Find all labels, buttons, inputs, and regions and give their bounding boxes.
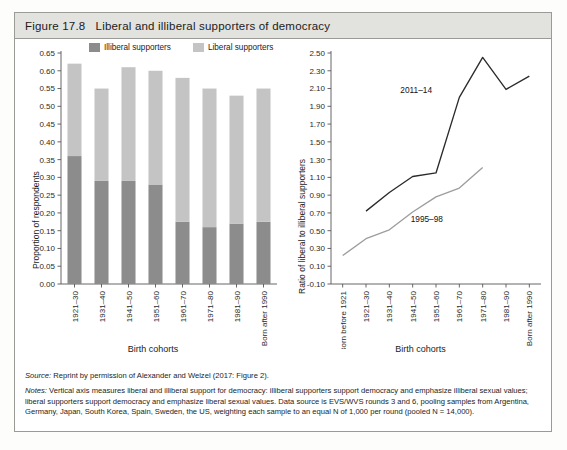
figure-root: Figure 17.8 Liberal and illiberal suppor… xyxy=(0,0,567,450)
bar-chart-svg: 0.000.050.100.150.200.250.300.350.400.45… xyxy=(19,39,284,349)
figure-number: Figure 17.8 xyxy=(25,20,85,32)
svg-text:0.55: 0.55 xyxy=(39,84,55,93)
legend-swatch-liberal xyxy=(193,43,204,52)
svg-text:0.30: 0.30 xyxy=(309,244,325,253)
svg-text:0.50: 0.50 xyxy=(309,227,325,236)
svg-text:0.60: 0.60 xyxy=(39,67,55,76)
svg-text:2011–14: 2011–14 xyxy=(400,85,432,95)
line-chart-svg: -0.100.100.300.500.700.901.101.301.501.7… xyxy=(285,39,549,349)
svg-text:1961–70: 1961–70 xyxy=(179,290,188,322)
svg-text:1.70: 1.70 xyxy=(309,120,325,129)
svg-text:0.90: 0.90 xyxy=(309,191,325,200)
svg-text:1921–30: 1921–30 xyxy=(362,290,371,322)
right-x-axis-title: Birth cohorts xyxy=(303,344,538,354)
svg-text:0.25: 0.25 xyxy=(39,191,55,200)
svg-text:2.10: 2.10 xyxy=(309,84,325,93)
svg-text:1951–60: 1951–60 xyxy=(152,290,161,322)
svg-text:0.05: 0.05 xyxy=(39,262,55,271)
svg-text:0.65: 0.65 xyxy=(39,49,55,58)
right-y-axis-title: Ratio of liberal to illiberal supporters xyxy=(297,159,307,294)
svg-text:0.00: 0.00 xyxy=(39,280,55,289)
svg-text:1971–80: 1971–80 xyxy=(206,290,215,322)
legend-item-liberal: Liberal supporters xyxy=(193,43,274,52)
svg-text:Born after 1990: Born after 1990 xyxy=(525,290,534,346)
legend: Illiberal supporters Liberal supporters xyxy=(89,43,273,52)
svg-text:1941–50: 1941–50 xyxy=(125,290,134,322)
svg-text:0.35: 0.35 xyxy=(39,156,55,165)
notes-line: Notes: Vertical axis measures liberal an… xyxy=(25,386,543,417)
svg-text:2.30: 2.30 xyxy=(309,67,325,76)
figure-title: Liberal and illiberal supporters of demo… xyxy=(96,20,331,32)
svg-text:1971–80: 1971–80 xyxy=(479,290,488,322)
svg-text:0.10: 0.10 xyxy=(309,262,325,271)
source-text: Reprint by permission of Alexander and W… xyxy=(51,371,269,380)
svg-text:0.30: 0.30 xyxy=(39,173,55,182)
legend-swatch-illiberal xyxy=(89,43,100,52)
figure-caption: Figure 17.8 Liberal and illiberal suppor… xyxy=(15,20,330,32)
svg-text:0.10: 0.10 xyxy=(39,244,55,253)
notes-text: Vertical axis measures liberal and illib… xyxy=(25,386,529,416)
svg-text:0.45: 0.45 xyxy=(39,120,55,129)
svg-text:-0.10: -0.10 xyxy=(307,280,326,289)
legend-item-illiberal: Illiberal supporters xyxy=(89,43,171,52)
left-x-axis-title: Birth cohorts xyxy=(33,344,273,354)
figure-caption-bar: Figure 17.8 Liberal and illiberal suppor… xyxy=(15,13,551,39)
left-y-axis-title: Proportion of respondents xyxy=(31,171,41,269)
svg-text:1981–90: 1981–90 xyxy=(233,290,242,322)
svg-text:1995–98: 1995–98 xyxy=(411,214,444,224)
svg-text:1921–30: 1921–30 xyxy=(71,290,80,322)
left-chart-panel: Illiberal supporters Liberal supporters … xyxy=(19,39,284,369)
svg-text:1931–40: 1931–40 xyxy=(98,290,107,322)
legend-label-illiberal: Illiberal supporters xyxy=(104,43,171,52)
svg-text:1981–90: 1981–90 xyxy=(502,290,511,322)
svg-text:Born after 1990: Born after 1990 xyxy=(260,290,269,346)
footnotes: Source: Reprint by permission of Alexand… xyxy=(25,371,543,417)
svg-text:0.70: 0.70 xyxy=(309,209,325,218)
svg-text:1.50: 1.50 xyxy=(309,138,325,147)
svg-text:0.20: 0.20 xyxy=(39,209,55,218)
svg-text:2.50: 2.50 xyxy=(309,49,325,58)
svg-text:1961–70: 1961–70 xyxy=(455,290,464,322)
svg-text:1941–50: 1941–50 xyxy=(409,290,418,322)
svg-text:1.10: 1.10 xyxy=(309,173,325,182)
right-chart-panel: -0.100.100.300.500.700.901.101.301.501.7… xyxy=(285,39,549,369)
source-label: Source: xyxy=(25,371,51,380)
svg-text:1.90: 1.90 xyxy=(309,102,325,111)
svg-text:0.40: 0.40 xyxy=(39,138,55,147)
svg-text:0.50: 0.50 xyxy=(39,102,55,111)
svg-text:1951–60: 1951–60 xyxy=(432,290,441,322)
legend-label-liberal: Liberal supporters xyxy=(208,43,274,52)
charts-area: Illiberal supporters Liberal supporters … xyxy=(15,39,551,369)
svg-text:1.30: 1.30 xyxy=(309,156,325,165)
svg-text:0.15: 0.15 xyxy=(39,227,55,236)
svg-text:1931–40: 1931–40 xyxy=(385,290,394,322)
figure-box: Figure 17.8 Liberal and illiberal suppor… xyxy=(14,12,552,432)
svg-text:Born before 1921: Born before 1921 xyxy=(339,290,348,349)
source-line: Source: Reprint by permission of Alexand… xyxy=(25,371,543,380)
notes-label: Notes: xyxy=(25,386,47,395)
